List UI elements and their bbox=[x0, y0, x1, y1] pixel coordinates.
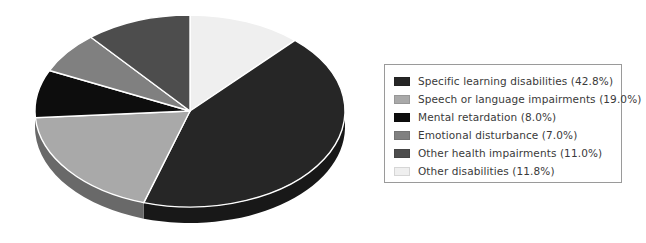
legend: Specific learning disabilities (42.8%)Sp… bbox=[384, 64, 622, 183]
legend-items: Specific learning disabilities (42.8%)Sp… bbox=[394, 72, 617, 180]
swatch-mental-retardation bbox=[394, 113, 410, 122]
legend-item: Other disabilities (11.8%) bbox=[394, 162, 617, 180]
legend-item: Specific learning disabilities (42.8%) bbox=[394, 72, 617, 90]
legend-item: Mental retardation (8.0%) bbox=[394, 108, 617, 126]
legend-item-label: Other disabilities (11.8%) bbox=[418, 165, 555, 178]
pie-top-faces bbox=[35, 15, 345, 207]
swatch-other-disabilities bbox=[394, 167, 410, 176]
pie-svg bbox=[18, 8, 363, 236]
legend-item-label: Other health impairments (11.0%) bbox=[418, 147, 602, 160]
legend-item-label: Emotional disturbance (7.0%) bbox=[418, 129, 577, 142]
legend-item: Speech or language impairments (19.0%) bbox=[394, 90, 617, 108]
swatch-specific-learning-disabilities bbox=[394, 77, 410, 86]
swatch-other-health-impairments bbox=[394, 149, 410, 158]
pie-chart-figure: Specific learning disabilities (42.8%)Sp… bbox=[0, 0, 646, 243]
legend-item-label: Mental retardation (8.0%) bbox=[418, 111, 556, 124]
legend-item-label: Specific learning disabilities (42.8%) bbox=[418, 75, 613, 88]
swatch-speech-or-language-impairments bbox=[394, 95, 410, 104]
swatch-emotional-disturbance bbox=[394, 131, 410, 140]
pie-chart-graphic bbox=[18, 8, 363, 236]
legend-item-label: Speech or language impairments (19.0%) bbox=[418, 93, 641, 106]
legend-item: Emotional disturbance (7.0%) bbox=[394, 126, 617, 144]
legend-item: Other health impairments (11.0%) bbox=[394, 144, 617, 162]
